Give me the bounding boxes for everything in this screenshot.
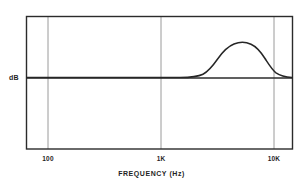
frequency-response-chart: dB 100 1K 10K FREQUENCY (Hz) (0, 0, 303, 189)
x-axis-title: FREQUENCY (Hz) (0, 170, 303, 177)
y-axis-label: dB (9, 74, 19, 81)
x-tick-label-100: 100 (42, 156, 53, 163)
x-tick-label-1k: 1K (157, 156, 166, 163)
x-tick-label-10k: 10K (268, 156, 281, 163)
